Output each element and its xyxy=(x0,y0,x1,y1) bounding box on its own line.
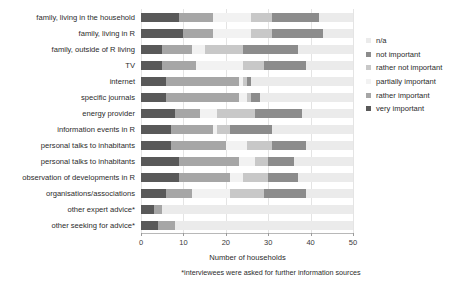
bar-segment xyxy=(255,157,268,166)
bar-segment xyxy=(294,157,353,166)
legend-swatch-icon xyxy=(366,93,371,98)
bar-segment xyxy=(141,205,154,214)
legend-label: very important xyxy=(376,104,424,113)
bar-segment xyxy=(230,173,243,182)
legend-swatch-icon xyxy=(366,106,371,111)
bar-segment xyxy=(175,109,200,118)
bar-segment xyxy=(179,13,213,22)
x-tick-label: 20 xyxy=(211,238,241,247)
legend-swatch-icon xyxy=(366,38,371,43)
bar-segment xyxy=(306,61,353,70)
x-axis-title: Number of households xyxy=(141,253,354,262)
legend-item[interactable]: rather not important xyxy=(366,61,442,75)
bar-segment xyxy=(141,157,179,166)
legend-label: n/a xyxy=(376,36,387,45)
bar-segment xyxy=(141,61,162,70)
bar-segment xyxy=(171,125,213,134)
bar-segment xyxy=(298,173,353,182)
bar-segment xyxy=(264,189,306,198)
legend-item[interactable]: very important xyxy=(366,102,442,116)
x-tick-label: 50 xyxy=(338,238,368,247)
bar-segment xyxy=(196,61,243,70)
bar-segment xyxy=(200,109,217,118)
bar-row xyxy=(141,45,353,54)
x-tick xyxy=(226,233,227,236)
bar-segment xyxy=(162,61,196,70)
legend-swatch-icon xyxy=(366,52,371,57)
bar-segment xyxy=(251,29,272,38)
bar-segment xyxy=(255,109,302,118)
legend-label: not important xyxy=(376,50,420,59)
category-label: other seeking for advice* xyxy=(0,221,135,230)
chart-footnote: *interviewees were asked for further inf… xyxy=(141,268,401,277)
bar-segment xyxy=(141,13,179,22)
bar-segment xyxy=(141,221,158,230)
bar-segment xyxy=(272,13,319,22)
legend-item[interactable]: rather important xyxy=(366,88,442,102)
gridline xyxy=(311,9,312,233)
bar-row xyxy=(141,61,353,70)
category-label: information events in R xyxy=(0,125,135,134)
bar-row xyxy=(141,221,353,230)
x-tick xyxy=(311,233,312,236)
category-label: other expert advice* xyxy=(0,205,135,214)
gridline xyxy=(353,9,354,233)
bar-segment xyxy=(272,125,353,134)
category-label: internet xyxy=(0,77,135,86)
bar-segment xyxy=(230,189,264,198)
bar-row xyxy=(141,109,353,118)
bar-segment xyxy=(298,45,353,54)
x-tick xyxy=(353,233,354,236)
bar-segment xyxy=(251,93,259,102)
bar-segment xyxy=(141,125,171,134)
bar-segment xyxy=(166,189,191,198)
bar-segment xyxy=(162,205,353,214)
category-label: organisations/associations xyxy=(0,189,135,198)
x-tick-label: 0 xyxy=(126,238,156,247)
bar-segment xyxy=(302,109,353,118)
bar-segment xyxy=(154,205,162,214)
bar-row xyxy=(141,141,353,150)
category-label: energy provider xyxy=(0,109,135,118)
bar-segment xyxy=(243,173,268,182)
plot-area xyxy=(141,9,353,233)
x-tick xyxy=(268,233,269,236)
category-label: family, outside of R living xyxy=(0,45,135,54)
legend-label: partially important xyxy=(376,77,436,86)
category-label: family, living in the household xyxy=(0,13,135,22)
bar-segment xyxy=(179,157,238,166)
bar-segment xyxy=(251,77,353,86)
bar-row xyxy=(141,29,353,38)
bar-segment xyxy=(247,141,272,150)
stacked-bar-chart: 01020304050 family, living in the househ… xyxy=(0,0,464,285)
legend-item[interactable]: n/a xyxy=(366,34,442,48)
bar-segment xyxy=(183,29,213,38)
gridline xyxy=(183,9,184,233)
bar-segment xyxy=(141,141,171,150)
bar-row xyxy=(141,13,353,22)
bar-row xyxy=(141,157,353,166)
x-tick-label: 10 xyxy=(168,238,198,247)
x-tick xyxy=(183,233,184,236)
gridline xyxy=(226,9,227,233)
bar-segment xyxy=(179,173,230,182)
bar-row xyxy=(141,189,353,198)
bar-segment xyxy=(175,221,353,230)
bar-segment xyxy=(217,125,230,134)
x-tick-label: 30 xyxy=(253,238,283,247)
bar-row xyxy=(141,125,353,134)
legend-item[interactable]: not important xyxy=(366,48,442,62)
bar-segment xyxy=(272,29,323,38)
x-axis-line xyxy=(141,233,354,234)
bar-segment xyxy=(243,45,298,54)
bar-segment xyxy=(141,29,183,38)
gridline xyxy=(141,9,142,233)
bar-row xyxy=(141,173,353,182)
legend-item[interactable]: partially important xyxy=(366,75,442,89)
bar-segment xyxy=(166,77,238,86)
bar-segment xyxy=(268,173,298,182)
category-label: specific journals xyxy=(0,93,135,102)
bar-segment xyxy=(264,61,306,70)
bar-segment xyxy=(166,93,238,102)
category-label: observation of developments in R xyxy=(0,173,135,182)
